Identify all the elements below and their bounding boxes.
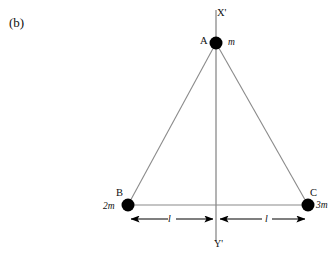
node-b <box>122 199 135 212</box>
node-a <box>210 37 223 50</box>
node-b-label: B <box>116 188 123 199</box>
node-c <box>302 199 315 212</box>
node-a-mass-label: m <box>228 38 235 48</box>
dimension-label-right: l <box>265 214 268 224</box>
figure-container: (b) X' Y' A m B 2m C 3m l l <box>0 0 333 253</box>
panel-label: (b) <box>9 16 24 29</box>
node-c-mass-label: 3m <box>316 201 328 211</box>
dimension-label-left: l <box>168 214 171 224</box>
edge-a-b <box>128 43 216 205</box>
diagram-svg <box>0 0 333 253</box>
axis-top-label: X' <box>217 8 226 19</box>
node-c-label: C <box>310 188 317 199</box>
node-a-label: A <box>200 36 208 47</box>
edge-a-c <box>216 43 308 205</box>
node-b-mass-label: 2m <box>103 202 115 212</box>
axis-bottom-label: Y' <box>214 239 223 249</box>
